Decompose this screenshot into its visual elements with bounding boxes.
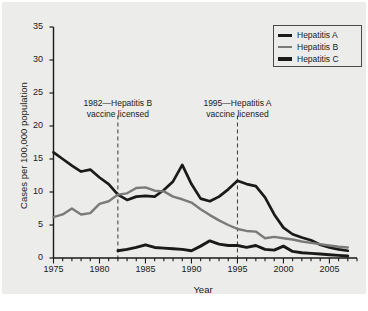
annotation-label: 1982—Hepatitis Bvaccine licensed — [53, 98, 183, 120]
x-tick-label: 1980 — [84, 264, 114, 274]
x-tick-label: 1985 — [130, 264, 160, 274]
y-tick-label: 35 — [21, 21, 43, 31]
legend-item: Hepatitis C — [278, 53, 357, 65]
legend-item: Hepatitis A — [278, 29, 357, 41]
y-tick-label: 5 — [21, 219, 43, 229]
x-tick-label: 1975 — [39, 264, 69, 274]
legend-line-swatch — [278, 57, 292, 61]
annotation-line-1: 1995—Hepatitis A — [172, 98, 302, 109]
y-tick-label: 0 — [21, 252, 43, 262]
chart-figure: Cases per 100,000 population Year 051015… — [0, 0, 368, 311]
x-axis-title: Year — [53, 284, 353, 295]
legend-label: Hepatitis C — [297, 54, 339, 64]
y-tick-label: 10 — [21, 186, 43, 196]
legend-line-swatch — [278, 46, 292, 49]
x-tick-label: 1995 — [222, 264, 252, 274]
y-tick-label: 15 — [21, 153, 43, 163]
annotation-line-2: vaccine licensed — [53, 109, 183, 120]
y-tick-label: 20 — [21, 120, 43, 130]
legend-label: Hepatitis B — [297, 42, 338, 52]
legend-line-swatch — [278, 34, 292, 37]
legend-item: Hepatitis B — [278, 41, 357, 53]
legend-label: Hepatitis A — [297, 30, 338, 40]
x-tick-label: 1990 — [176, 264, 206, 274]
y-tick-label: 30 — [21, 54, 43, 64]
y-tick-label: 25 — [21, 87, 43, 97]
chart-legend: Hepatitis AHepatitis BHepatitis C — [273, 25, 362, 67]
annotation-label: 1995—Hepatitis Avaccine licensed — [172, 98, 302, 120]
x-tick-label: 2005 — [314, 264, 344, 274]
annotation-line-1: 1982—Hepatitis B — [53, 98, 183, 109]
x-tick-label: 2000 — [268, 264, 298, 274]
annotation-line-2: vaccine licensed — [172, 109, 302, 120]
